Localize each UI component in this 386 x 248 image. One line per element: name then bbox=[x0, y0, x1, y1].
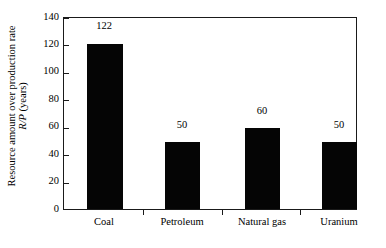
x-tick-label-coal: Coal bbox=[94, 216, 114, 228]
x-tick-label-petroleum: Petroleum bbox=[160, 216, 203, 228]
x-tick-mark-1 bbox=[143, 210, 144, 215]
y-tick-label-140: 140 bbox=[13, 12, 59, 22]
bar-value-uranium: 50 bbox=[334, 119, 345, 130]
bar-petroleum bbox=[165, 142, 200, 210]
y-tick-mark-0 bbox=[64, 209, 69, 210]
x-tick-label-uranium: Uranium bbox=[320, 216, 357, 228]
y-tick-label-20: 20 bbox=[13, 176, 59, 186]
y-tick-label-0: 0 bbox=[13, 204, 59, 214]
y-tick-mark-20 bbox=[64, 183, 69, 184]
y-tick-mark-60 bbox=[64, 128, 69, 129]
y-tick-label-40: 40 bbox=[13, 149, 59, 159]
plot-area bbox=[63, 17, 357, 210]
y-axis-title-line2: R/P (years) bbox=[17, 26, 28, 187]
bar-value-natural-gas: 60 bbox=[257, 105, 268, 116]
y-tick-label-120: 120 bbox=[13, 39, 59, 49]
y-tick-label-80: 80 bbox=[13, 94, 59, 104]
bar-uranium bbox=[322, 142, 357, 210]
x-tick-label-natural-gas: Natural gas bbox=[238, 216, 286, 228]
bar-value-petroleum: 50 bbox=[177, 119, 188, 130]
bar-natural-gas bbox=[245, 128, 280, 209]
plot-inner bbox=[64, 18, 356, 209]
y-tick-mark-40 bbox=[64, 155, 69, 156]
bar-coal bbox=[87, 44, 123, 209]
bar-value-coal: 122 bbox=[96, 20, 112, 31]
y-tick-mark-140 bbox=[64, 18, 69, 19]
y-tick-mark-80 bbox=[64, 100, 69, 101]
bar-chart-figure: Resource amount over production rate R/P… bbox=[0, 0, 386, 248]
y-tick-label-100: 100 bbox=[13, 66, 59, 76]
y-tick-mark-100 bbox=[64, 73, 69, 74]
x-tick-mark-3 bbox=[300, 210, 301, 215]
x-tick-mark-2 bbox=[222, 210, 223, 215]
y-tick-label-60: 60 bbox=[13, 121, 59, 131]
y-axis-title-line1: Resource amount over production rate bbox=[6, 26, 17, 187]
y-tick-mark-120 bbox=[64, 45, 69, 46]
